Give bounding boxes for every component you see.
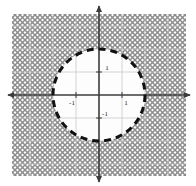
y-axis-label-minus-one: -1 [102, 110, 108, 118]
coordinate-plane-plot: -1 1 1 -1 [0, 0, 196, 186]
y-axis-label-plus-one: 1 [105, 64, 109, 72]
x-axis-label-minus-one: -1 [69, 99, 75, 107]
x-axis-label-plus-one: 1 [124, 99, 128, 107]
graph-figure: -1 1 1 -1 [0, 0, 196, 186]
